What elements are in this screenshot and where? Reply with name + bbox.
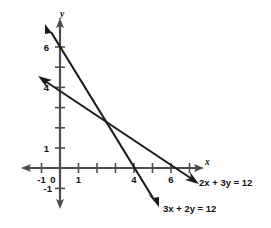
y-axis-label: y [59, 9, 65, 19]
line-3x-2y-12-arrow-end-icon [148, 194, 159, 207]
x-tick-label-1: 1 [76, 174, 82, 185]
y-tick-label-4: 4 [44, 82, 50, 93]
line-2x-3y-12-arrow-end-icon [185, 172, 199, 184]
x-tick-label-4: 4 [131, 174, 137, 185]
equation-label-3x-2y-12: 3x + 2y = 12 [163, 203, 216, 214]
coordinate-plane-svg: -1 0 1 4 6 6 4 1 -1 y x 2x + 3y = 12 3x … [0, 0, 271, 228]
line-3x-2y-12 [45, 24, 159, 207]
x-tick-label-6: 6 [168, 174, 173, 185]
y-tick-label-6: 6 [44, 42, 49, 53]
line-3x-2y-12-segment [51, 32, 153, 198]
x-axis-label: x [204, 157, 210, 167]
y-tick-label-neg1: -1 [44, 183, 53, 194]
equation-label-2x-3y-12: 2x + 3y = 12 [199, 177, 252, 188]
y-tick-label-1: 1 [44, 143, 50, 154]
line-2x-3y-12-segment [45, 81, 192, 179]
graph-figure: -1 0 1 4 6 6 4 1 -1 y x 2x + 3y = 12 3x … [0, 0, 271, 228]
